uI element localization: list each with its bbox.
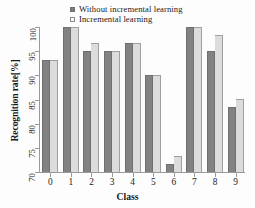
bar-4-series-2 — [133, 43, 141, 172]
bar-3-series-2 — [112, 51, 120, 172]
y-axis-tick-label: 85 — [29, 101, 38, 110]
y-axis-title: Recognition rate[%] — [8, 28, 20, 173]
bar-5-series-2 — [153, 75, 161, 172]
x-axis-tick-label: 1 — [69, 178, 74, 187]
bar-4-series-1 — [125, 43, 133, 172]
bar-7-series-2 — [194, 27, 202, 172]
legend-label-series-2: Incremental learning — [79, 14, 152, 24]
bar-groups: 0123456789 — [40, 27, 246, 172]
legend-swatch-open-square-icon — [70, 17, 75, 22]
y-axis-tick-label: 95 — [29, 52, 38, 61]
x-axis-tick-label: 5 — [151, 178, 156, 187]
x-axis-tick-label: 7 — [192, 178, 197, 187]
bar-5-series-1 — [145, 75, 153, 172]
bar-group: 4 — [125, 27, 141, 172]
bar-7-series-1 — [186, 27, 194, 172]
x-axis-tick-label: 2 — [89, 178, 94, 187]
y-axis-tick-label: 80 — [29, 125, 38, 134]
x-axis-title: Class — [0, 191, 255, 202]
bar-group: 5 — [145, 27, 161, 172]
bar-group: 6 — [166, 27, 182, 172]
x-axis-tick-label: 8 — [213, 178, 218, 187]
bar-group: 8 — [207, 27, 223, 172]
y-axis-tick-label: 90 — [29, 76, 38, 85]
x-axis-tick-label: 6 — [172, 178, 177, 187]
bar-3-series-1 — [104, 51, 112, 172]
bar-group: 0 — [42, 27, 58, 172]
y-axis-title-text: Recognition rate[%] — [9, 59, 20, 141]
bar-0-series-1 — [42, 60, 50, 172]
legend-label-series-1: Without incremental learning — [79, 4, 183, 14]
x-axis-tick-label: 3 — [110, 178, 115, 187]
bar-group: 9 — [228, 27, 244, 172]
y-axis-tick-label: 100 — [29, 28, 38, 41]
bar-chart-figure: Without incremental learning Incremental… — [0, 0, 255, 208]
legend-swatch-filled-square-icon — [70, 7, 75, 12]
legend-item-without-incremental-learning: Without incremental learning — [70, 4, 183, 14]
bar-1-series-1 — [63, 27, 71, 172]
bar-6-series-1 — [166, 164, 174, 172]
bar-9-series-2 — [236, 99, 244, 172]
y-axis-tick-label: 70 — [29, 173, 38, 182]
x-axis-tick-label: 4 — [130, 178, 135, 187]
bar-2-series-1 — [83, 51, 91, 172]
bar-group: 1 — [63, 27, 79, 172]
x-axis-line — [39, 172, 245, 173]
chart-legend: Without incremental learning Incremental… — [70, 4, 183, 24]
bar-9-series-1 — [228, 107, 236, 172]
bar-2-series-2 — [91, 43, 99, 172]
bar-group: 7 — [186, 27, 202, 172]
x-axis-tick-label: 9 — [233, 178, 238, 187]
bar-6-series-2 — [174, 156, 182, 172]
bar-group: 3 — [104, 27, 120, 172]
y-axis-tick-label: 75 — [29, 149, 38, 158]
bar-group: 2 — [83, 27, 99, 172]
bar-8-series-2 — [215, 35, 223, 172]
x-axis-tick-label: 0 — [48, 178, 53, 187]
legend-item-incremental-learning: Incremental learning — [70, 14, 183, 24]
plot-area: 707580859095100 0123456789 — [39, 27, 246, 172]
bar-8-series-1 — [207, 51, 215, 172]
bar-0-series-2 — [50, 60, 58, 172]
bar-1-series-2 — [71, 27, 79, 172]
